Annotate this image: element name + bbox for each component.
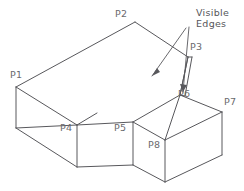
edge-mid-bottom-right xyxy=(133,165,165,182)
edge-left-inner-back xyxy=(77,113,97,125)
leader-to-narrow xyxy=(183,27,189,92)
callout-line-2: Edges xyxy=(196,18,229,29)
edge-top-face-front-left xyxy=(16,87,77,125)
arrow-top-edge-icon xyxy=(152,68,160,76)
vertex-label-p7: P7 xyxy=(224,97,236,107)
vertex-label-p5: P5 xyxy=(114,123,126,133)
isometric-block-figure: P1P2P3P4P5P6P7P8 Visible Edges xyxy=(0,0,244,191)
edge-left-bottom-front xyxy=(16,128,77,167)
callout-line-1: Visible xyxy=(196,7,229,18)
visible-edges-callout: Visible Edges xyxy=(196,7,229,29)
edge-right-bottom-edge xyxy=(165,155,222,182)
edge-top-face-rear-right xyxy=(135,22,188,57)
vertex-label-p4: P4 xyxy=(60,123,72,133)
edge-right-top-p5-p6 xyxy=(133,122,165,140)
edge-right-top-front-p7 xyxy=(165,112,222,140)
vertex-label-p6: P6 xyxy=(178,89,190,99)
vertex-label-p3: P3 xyxy=(190,42,202,52)
vertex-label-p2: P2 xyxy=(115,9,127,19)
vertex-label-p1: P1 xyxy=(10,70,22,80)
vertex-label-p8: P8 xyxy=(148,140,160,150)
edge-top-face-front-long xyxy=(133,95,180,122)
edge-top-face-rear-left xyxy=(16,22,135,87)
edge-mid-bottom-front xyxy=(77,165,133,167)
